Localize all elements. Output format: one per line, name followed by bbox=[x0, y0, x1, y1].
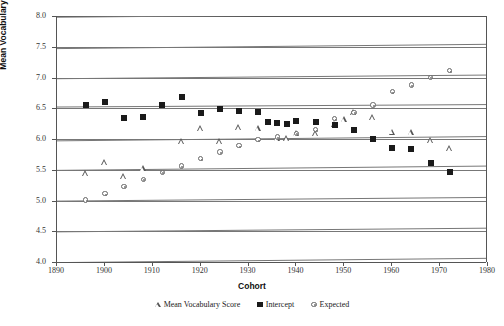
data-point-circle bbox=[447, 68, 452, 73]
data-point-square bbox=[428, 160, 434, 166]
y-tick-label-7.5: 7.5 bbox=[24, 42, 46, 51]
data-point-square bbox=[198, 110, 204, 116]
legend-item[interactable]: Mean Vocabulary Score bbox=[155, 300, 241, 309]
data-point-circle bbox=[332, 116, 337, 121]
data-point-triangle bbox=[82, 170, 88, 176]
y-tick-mark-8.0 bbox=[52, 16, 56, 17]
y-tick-mark-6.0 bbox=[52, 139, 56, 140]
trendline-layer bbox=[57, 16, 486, 262]
x-tick-label-1970: 1970 bbox=[419, 266, 459, 275]
y-tick-label-7.0: 7.0 bbox=[24, 73, 46, 82]
data-point-triangle bbox=[369, 114, 375, 120]
data-point-triangle bbox=[140, 165, 146, 171]
x-tick-label-1930: 1930 bbox=[228, 266, 268, 275]
y-tick-label-6.5: 6.5 bbox=[24, 103, 46, 112]
trendline-expected-fit bbox=[57, 166, 486, 170]
trendline-lower-fit-a bbox=[57, 228, 486, 232]
data-point-square bbox=[159, 102, 165, 108]
trendline-lower-fit-b bbox=[57, 258, 486, 262]
data-point-square bbox=[408, 146, 414, 152]
y-tick-mark-7.0 bbox=[52, 78, 56, 79]
data-point-triangle bbox=[408, 129, 414, 135]
data-point-triangle bbox=[178, 138, 184, 144]
data-point-triangle bbox=[427, 137, 433, 143]
data-point-circle bbox=[313, 127, 318, 132]
data-point-triangle bbox=[235, 124, 241, 130]
data-point-triangle bbox=[255, 125, 261, 131]
data-point-square bbox=[217, 106, 223, 112]
y-tick-mark-4.5 bbox=[52, 231, 56, 232]
data-point-circle bbox=[217, 149, 222, 154]
data-point-triangle bbox=[341, 116, 347, 122]
data-point-square bbox=[274, 120, 280, 126]
y-tick-label-4.5: 4.5 bbox=[24, 226, 46, 235]
gridline-y-4.0 bbox=[57, 262, 486, 263]
vocabulary-score-scatter-chart: Mean Vocabulary Score Cohort Mean Vocabu… bbox=[0, 0, 504, 326]
data-point-circle bbox=[409, 82, 414, 87]
legend-item[interactable]: Intercept bbox=[257, 300, 294, 309]
data-point-square bbox=[179, 94, 185, 100]
data-point-square bbox=[351, 127, 357, 133]
data-point-triangle bbox=[446, 145, 452, 151]
data-point-square bbox=[236, 108, 242, 114]
legend-item[interactable]: Expected bbox=[311, 300, 349, 309]
x-tick-mark-1960 bbox=[391, 262, 392, 266]
legend-item-label: Mean Vocabulary Score bbox=[164, 300, 241, 309]
x-tick-label-1980: 1980 bbox=[467, 266, 504, 275]
y-tick-label-8.0: 8.0 bbox=[24, 11, 46, 20]
data-point-triangle bbox=[120, 173, 126, 179]
x-axis-title: Cohort bbox=[0, 281, 504, 291]
trendline-intercept-fit bbox=[57, 105, 486, 107]
data-point-square bbox=[313, 119, 319, 125]
x-tick-label-1920: 1920 bbox=[180, 266, 220, 275]
data-point-triangle bbox=[283, 135, 289, 141]
y-tick-mark-7.5 bbox=[52, 47, 56, 48]
data-point-square bbox=[447, 169, 453, 175]
data-point-square bbox=[293, 118, 299, 124]
data-point-square bbox=[332, 122, 338, 128]
legend-item-label: Expected bbox=[320, 300, 350, 309]
data-point-triangle bbox=[101, 159, 107, 165]
x-tick-mark-1910 bbox=[152, 262, 153, 266]
x-tick-mark-1900 bbox=[104, 262, 105, 266]
trendline-mean-vocabulary-fit bbox=[57, 137, 486, 141]
data-point-square bbox=[83, 102, 89, 108]
y-tick-mark-5.0 bbox=[52, 201, 56, 202]
y-tick-label-5.5: 5.5 bbox=[24, 165, 46, 174]
circle-icon bbox=[311, 302, 316, 307]
data-point-circle bbox=[198, 156, 203, 161]
x-tick-mark-1930 bbox=[248, 262, 249, 266]
data-point-circle bbox=[275, 134, 280, 139]
legend-item-label: Intercept bbox=[266, 300, 294, 309]
data-point-circle bbox=[351, 110, 356, 115]
x-tick-label-1890: 1890 bbox=[36, 266, 76, 275]
plot-area bbox=[56, 16, 487, 262]
data-point-circle bbox=[179, 163, 184, 168]
chart-legend: Mean Vocabulary ScoreInterceptExpected bbox=[0, 300, 504, 309]
x-tick-mark-1950 bbox=[343, 262, 344, 266]
trendline-upper-fit-b bbox=[57, 44, 486, 48]
x-tick-label-1910: 1910 bbox=[132, 266, 172, 275]
y-tick-label-6.0: 6.0 bbox=[24, 134, 46, 143]
data-point-square bbox=[255, 109, 261, 115]
x-tick-mark-1940 bbox=[295, 262, 296, 266]
data-point-circle bbox=[102, 191, 107, 196]
data-point-circle bbox=[83, 197, 88, 202]
data-point-square bbox=[121, 115, 127, 121]
y-tick-label-5.0: 5.0 bbox=[24, 196, 46, 205]
x-tick-label-1900: 1900 bbox=[84, 266, 124, 275]
x-tick-label-1950: 1950 bbox=[323, 266, 363, 275]
data-point-square bbox=[102, 99, 108, 105]
trendline-baseline-fit bbox=[57, 197, 486, 201]
triangle-icon bbox=[155, 302, 161, 307]
x-tick-mark-1980 bbox=[487, 262, 488, 266]
x-tick-label-1960: 1960 bbox=[371, 266, 411, 275]
data-point-circle bbox=[160, 170, 165, 175]
data-point-triangle bbox=[197, 125, 203, 131]
x-tick-label-1940: 1940 bbox=[275, 266, 315, 275]
data-point-square bbox=[284, 121, 290, 127]
y-tick-mark-5.5 bbox=[52, 170, 56, 171]
x-tick-mark-1920 bbox=[200, 262, 201, 266]
y-tick-mark-6.5 bbox=[52, 108, 56, 109]
data-point-square bbox=[389, 145, 395, 151]
